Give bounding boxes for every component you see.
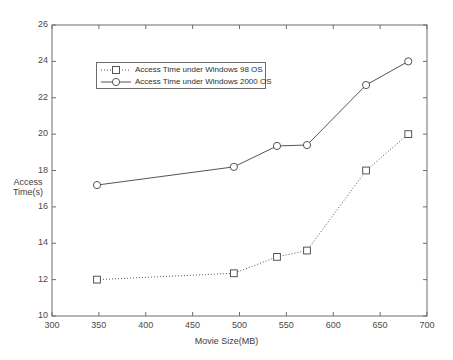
x-axis-title: Movie Size(MB) <box>0 336 453 346</box>
data-point-square-marker <box>94 276 101 283</box>
data-point-circle-marker <box>273 142 280 149</box>
data-point-square-marker <box>274 253 281 260</box>
y-tick-label: 12 <box>24 275 48 284</box>
data-point-circle-marker <box>405 58 412 65</box>
chart-figure: 101214161820222426 300350400450500550600… <box>0 0 453 360</box>
y-axis-title-line-2: Time(s) <box>6 187 50 197</box>
y-axis-title-line-1: Access <box>6 177 50 187</box>
y-tick-label: 24 <box>24 56 48 65</box>
data-point-circle-marker <box>93 181 100 188</box>
y-axis-title: Access Time(s) <box>6 177 50 197</box>
x-tick-label: 300 <box>32 321 72 330</box>
data-point-circle-marker <box>362 81 369 88</box>
legend-entry-windows-2000: Access Time under Windows 2000 OS <box>97 76 265 88</box>
y-tick-label: 16 <box>24 202 48 211</box>
x-tick-label: 600 <box>313 321 353 330</box>
y-tick-label: 14 <box>24 238 48 247</box>
data-point-circle-marker <box>230 163 237 170</box>
data-point-square-marker <box>363 167 370 174</box>
data-point-square-marker <box>230 270 237 277</box>
x-tick-label: 500 <box>220 321 260 330</box>
x-tick-label: 550 <box>266 321 306 330</box>
data-point-square-marker <box>405 131 412 138</box>
y-tick-label: 26 <box>24 20 48 29</box>
legend-label-windows-2000: Access Time under Windows 2000 OS <box>135 77 272 87</box>
legend-sample-square-marker <box>100 64 132 76</box>
plot-canvas <box>0 0 453 360</box>
series-windows-98 <box>94 131 412 283</box>
legend-entry-windows-98: Access Time under Windows 98 OS <box>97 64 265 76</box>
legend-label-windows-98: Access Time under Windows 98 OS <box>135 65 263 75</box>
y-tick-label: 20 <box>24 129 48 138</box>
x-tick-label: 650 <box>360 321 400 330</box>
x-tick-label: 400 <box>126 321 166 330</box>
legend-sample-circle-marker <box>100 76 132 88</box>
chart-legend: Access Time under Windows 98 OS Access T… <box>96 62 266 89</box>
y-tick-label: 10 <box>24 311 48 320</box>
data-point-square-marker <box>304 247 311 254</box>
x-tick-label: 350 <box>79 321 119 330</box>
data-series-layer <box>93 58 411 283</box>
y-tick-label: 22 <box>24 93 48 102</box>
x-tick-label: 700 <box>407 321 447 330</box>
x-tick-label: 450 <box>173 321 213 330</box>
y-tick-label: 18 <box>24 166 48 175</box>
data-point-circle-marker <box>303 141 310 148</box>
